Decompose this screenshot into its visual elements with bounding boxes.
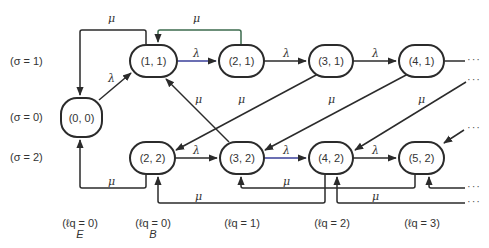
state-node-3-1: (3, 1): [308, 44, 354, 78]
mu-label-21-11: μ: [193, 12, 200, 25]
edge-in-to-52-bottom: [429, 177, 465, 188]
ellipsis-return2: ···: [467, 195, 481, 207]
column-label-lq2: (ℓq = 2): [302, 217, 362, 229]
mu-label-41-32: μ: [328, 93, 335, 106]
column-label-lq3: (ℓq = 3): [392, 217, 452, 229]
state-node-2-2: (2, 2): [129, 141, 176, 175]
mu-label-22-00: μ: [108, 175, 115, 188]
column-label-B: (ℓq = 0) B: [123, 217, 183, 240]
edge-21-to-11: [158, 30, 241, 44]
state-node-4-1: (4, 1): [398, 44, 445, 78]
mu-label-42-22: μ: [195, 190, 202, 203]
row-label-sigma-2: (σ = 2): [10, 151, 43, 163]
state-node-4-2: (4, 2): [308, 141, 354, 175]
column-label-lq1: (ℓq = 1): [212, 217, 272, 229]
lambda-label-31-41: λ: [372, 47, 379, 60]
edge-41-to-32: [265, 74, 408, 150]
row-label-sigma-1: (σ = 1): [10, 55, 43, 67]
edge-00-to-11: [99, 73, 131, 100]
edge-52-to-32: [241, 175, 415, 188]
mu-label-32-11: μ: [195, 93, 202, 106]
lambda-label-21-31: λ: [283, 47, 290, 60]
mu-label-in-42: μ: [418, 93, 425, 106]
lambda-label-22-32: λ: [193, 144, 200, 157]
state-node-2-1: (2, 1): [218, 44, 265, 78]
state-node-0-0: (0, 0): [60, 97, 103, 138]
state-node-3-2: (3, 2): [219, 141, 265, 175]
edge-in-to-42-bottom: [337, 177, 465, 203]
column-label-E: (ℓq = 0) E: [50, 217, 110, 240]
mu-label-52-32: μ: [283, 175, 290, 188]
state-node-1-1: (1, 1): [129, 44, 178, 78]
lambda-label-42-52: λ: [372, 144, 379, 157]
edge-32-to-11: [166, 79, 229, 142]
row-label-sigma-0: (σ = 0): [10, 111, 43, 123]
mu-label-in-42-bottom: μ: [372, 190, 379, 203]
state-node-5-2: (5, 2): [398, 141, 445, 175]
lambda-label-00-11: λ: [108, 72, 115, 85]
edge-in-to-52: [444, 130, 464, 143]
mu-label-11-00: μ: [108, 12, 115, 25]
lambda-label-11-21: λ: [193, 47, 200, 60]
ellipsis-return1: ···: [467, 180, 481, 192]
mu-label-31-22: μ: [238, 93, 245, 106]
ellipsis-row1: ···: [467, 53, 481, 65]
lambda-label-32-42: λ: [283, 144, 290, 157]
ellipsis-diag1: ···: [467, 73, 481, 85]
edge-31-to-22: [176, 74, 318, 150]
ellipsis-diag2: ···: [467, 121, 481, 133]
